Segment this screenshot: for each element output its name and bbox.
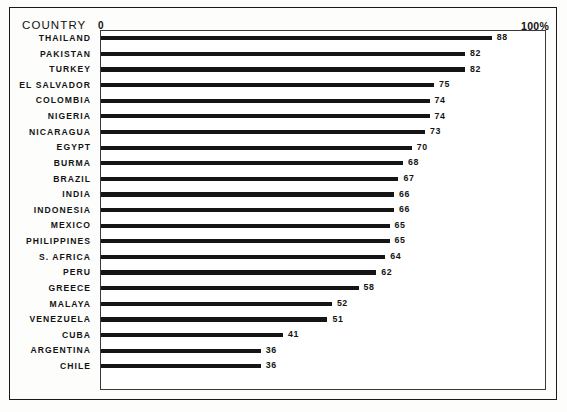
- bar-row: NIGERIA74: [0, 111, 567, 127]
- bar-category-label: PERU: [63, 267, 91, 278]
- bar-row: ARGENTINA36: [0, 345, 567, 361]
- bar-row: NICARAGUA73: [0, 127, 567, 143]
- bar-category-label: BRAZIL: [53, 174, 91, 185]
- bar: [101, 333, 283, 337]
- bar-value-label: 58: [364, 282, 375, 293]
- bar: [101, 208, 394, 212]
- bar-category-label: EL SALVADOR: [19, 80, 91, 91]
- bar: [101, 67, 465, 71]
- bar-row: GREECE58: [0, 283, 567, 299]
- bar: [101, 224, 390, 228]
- bar: [101, 364, 261, 368]
- bar-value-label: 36: [266, 345, 277, 356]
- bar-value-label: 66: [399, 204, 410, 215]
- bar-row: MALAYA52: [0, 299, 567, 315]
- bar-category-label: CHILE: [60, 361, 91, 372]
- bar-value-label: 52: [337, 298, 348, 309]
- bar-value-label: 74: [435, 95, 446, 106]
- bar: [101, 130, 425, 134]
- bar-value-label: 62: [381, 267, 392, 278]
- bar-row: VENEZUELA51: [0, 314, 567, 330]
- bar-category-label: MALAYA: [50, 299, 91, 310]
- bar-row: MEXICO65: [0, 220, 567, 236]
- bar: [101, 255, 385, 259]
- bar: [101, 270, 376, 274]
- bar-value-label: 82: [470, 48, 481, 59]
- bar: [101, 177, 398, 181]
- bar-row: EL SALVADOR75: [0, 80, 567, 96]
- bar-row: BRAZIL67: [0, 174, 567, 190]
- bar-value-label: 64: [390, 251, 401, 262]
- bar: [101, 36, 492, 40]
- bar-category-label: VENEZUELA: [30, 314, 92, 325]
- bar-value-label: 68: [408, 157, 419, 168]
- bar: [101, 83, 434, 87]
- bar: [101, 192, 394, 196]
- bar-value-label: 41: [288, 329, 299, 340]
- bar: [101, 161, 403, 165]
- bar-category-label: ARGENTINA: [30, 345, 91, 356]
- bar-row: PAKISTAN82: [0, 49, 567, 65]
- bar-value-label: 88: [497, 32, 508, 43]
- bar-category-label: GREECE: [48, 283, 91, 294]
- bar-category-label: MEXICO: [51, 220, 91, 231]
- bar-row: BURMA68: [0, 158, 567, 174]
- bar: [101, 302, 332, 306]
- bar-category-label: EGYPT: [57, 142, 91, 153]
- bar-value-label: 65: [395, 220, 406, 231]
- bar-row: PERU62: [0, 267, 567, 283]
- bar-category-label: NICARAGUA: [29, 127, 91, 138]
- bar-row: EGYPT70: [0, 142, 567, 158]
- bar-value-label: 82: [470, 64, 481, 75]
- bar-value-label: 66: [399, 189, 410, 200]
- bar-category-label: PAKISTAN: [40, 49, 91, 60]
- bar-row: CUBA41: [0, 330, 567, 346]
- bar: [101, 239, 390, 243]
- bar-category-label: TURKEY: [49, 64, 91, 75]
- chart-header: COUNTRY 0 100%: [0, 9, 567, 31]
- bar-category-label: S. AFRICA: [39, 252, 91, 263]
- bar-row: COLOMBIA74: [0, 95, 567, 111]
- bar-category-label: BURMA: [54, 158, 91, 169]
- bar: [101, 99, 430, 103]
- bar-row: INDONESIA66: [0, 205, 567, 221]
- bar-row: THAILAND88: [0, 33, 567, 49]
- bar-category-label: INDONESIA: [34, 205, 91, 216]
- bar: [101, 114, 430, 118]
- bar: [101, 349, 261, 353]
- bar-category-label: CUBA: [62, 330, 91, 341]
- bar-category-label: COLOMBIA: [36, 95, 91, 106]
- bar-value-label: 65: [395, 235, 406, 246]
- bar-value-label: 70: [417, 142, 428, 153]
- bar: [101, 317, 327, 321]
- bar-value-label: 51: [332, 314, 343, 325]
- bar-category-label: NIGERIA: [48, 111, 91, 122]
- bar-category-label: INDIA: [62, 189, 91, 200]
- bar-row: INDIA66: [0, 189, 567, 205]
- bar-value-label: 67: [403, 173, 414, 184]
- bar-rows-container: THAILAND88PAKISTAN82TURKEY82EL SALVADOR7…: [0, 30, 567, 390]
- bar-row: CHILE36: [0, 361, 567, 377]
- bar-value-label: 73: [430, 126, 441, 137]
- chart-screenshot: COUNTRY 0 100% THAILAND88PAKISTAN82TURKE…: [0, 0, 567, 412]
- bar-category-label: PHILIPPINES: [26, 236, 91, 247]
- bar: [101, 146, 412, 150]
- bar-category-label: THAILAND: [39, 33, 91, 44]
- bar-row: PHILIPPINES65: [0, 236, 567, 252]
- bar-value-label: 74: [435, 111, 446, 122]
- bar-row: TURKEY82: [0, 64, 567, 80]
- bar-value-label: 75: [439, 79, 450, 90]
- bar-row: S. AFRICA64: [0, 252, 567, 268]
- bar-value-label: 36: [266, 360, 277, 371]
- bar: [101, 286, 359, 290]
- bar: [101, 52, 465, 56]
